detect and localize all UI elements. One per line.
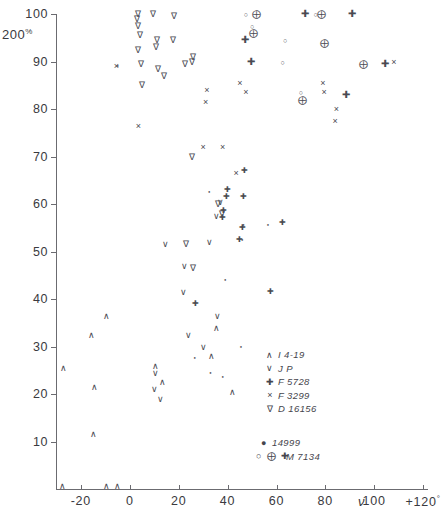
data-point <box>243 88 248 97</box>
data-point <box>206 238 213 247</box>
x-tick-100 <box>374 485 375 489</box>
legend-primary-item: ∇D 16156 <box>262 402 382 416</box>
legend-symbol-icon: ∇ <box>262 404 278 414</box>
legend-label: D 16156 <box>278 403 317 414</box>
data-point <box>189 57 195 66</box>
y-tick-60 <box>51 204 56 205</box>
data-point <box>180 287 187 296</box>
x-tick-label--20: -20 <box>71 494 91 508</box>
data-point <box>208 190 210 194</box>
x-tick-40 <box>228 485 229 489</box>
data-point <box>200 143 205 152</box>
data-point <box>252 10 261 19</box>
data-point <box>237 78 242 87</box>
data-point <box>103 311 110 320</box>
data-point <box>204 86 209 95</box>
y-tick-label-70: 70 <box>4 150 48 164</box>
x-tick-0 <box>130 485 131 489</box>
data-point <box>236 236 243 244</box>
legend-label: F 3299 <box>278 390 310 401</box>
data-point <box>320 38 329 47</box>
data-point <box>137 31 143 40</box>
data-point <box>332 116 337 125</box>
data-point <box>240 345 242 349</box>
y-tick-90 <box>51 62 56 63</box>
data-point <box>185 330 192 339</box>
data-point <box>299 89 303 96</box>
data-point <box>241 238 243 242</box>
data-point <box>221 375 223 379</box>
data-point <box>135 21 141 30</box>
data-point <box>213 323 220 332</box>
data-point <box>223 193 230 201</box>
data-point <box>283 37 287 44</box>
data-point <box>348 9 356 19</box>
legend-symbol-icon: ✚ <box>262 377 278 387</box>
data-point <box>182 59 188 68</box>
data-point <box>190 264 196 273</box>
data-point <box>152 368 159 377</box>
data-point <box>298 95 307 104</box>
data-point <box>134 14 140 23</box>
data-point <box>203 97 208 106</box>
x-tick-60 <box>277 485 278 489</box>
y-tick-label-90: 90 <box>4 55 48 69</box>
y-axis-line <box>56 14 57 490</box>
data-point <box>88 330 95 339</box>
data-point <box>136 121 141 130</box>
y-tick-40 <box>51 299 56 300</box>
data-point <box>320 78 325 87</box>
data-point <box>192 300 199 308</box>
legend-label: J P <box>278 363 293 374</box>
data-point <box>359 59 368 68</box>
data-point <box>239 224 246 232</box>
y-tick-label-10: 10 <box>4 435 48 449</box>
y-tick-label-40: 40 <box>4 292 48 306</box>
legend-primary-item: ✚F 5728 <box>262 375 382 389</box>
data-point <box>159 378 166 387</box>
y-tick-100 <box>51 14 56 15</box>
data-point <box>280 58 284 65</box>
data-point <box>217 197 224 206</box>
data-point <box>381 59 389 69</box>
y-tick-50 <box>51 252 56 253</box>
data-point <box>114 62 119 71</box>
data-point <box>190 52 196 61</box>
y-tick-label-20: 20 <box>4 387 48 401</box>
legend-symbol-icon: × <box>262 390 278 400</box>
data-point <box>242 223 244 227</box>
x-tick-label-40: 40 <box>220 494 236 508</box>
data-point <box>215 200 221 209</box>
y-tick-10 <box>51 442 56 443</box>
legend-symbol-icon: ● <box>256 438 272 448</box>
data-point <box>161 71 167 80</box>
data-point <box>219 209 225 218</box>
legend-secondary-item: ○ ⨁ ✚M 7134 <box>256 450 391 464</box>
x-tick-label-100: 100 <box>363 494 386 508</box>
data-point <box>183 240 189 249</box>
legend-primary-item: ∨J P <box>262 362 382 376</box>
data-point <box>209 371 211 375</box>
y-tick-80 <box>51 109 56 110</box>
legend-symbol-icon: ∧ <box>262 350 278 360</box>
y-tick-label-100: 100 <box>4 7 48 21</box>
data-point <box>139 81 145 90</box>
data-point <box>250 22 254 29</box>
data-point <box>171 12 177 21</box>
data-point <box>154 36 160 45</box>
x-tick-80 <box>325 485 326 489</box>
legend-primary-item: ×F 3299 <box>262 389 382 403</box>
y-tick-70 <box>51 157 56 158</box>
data-point <box>334 105 339 114</box>
data-point <box>267 288 274 296</box>
data-point <box>155 64 161 73</box>
data-point <box>90 430 97 439</box>
legend-primary: ∧I 4-19∨J P✚F 5728×F 3299∇D 16156 <box>262 348 382 416</box>
legend-symbol-icon: ∨ <box>262 363 278 373</box>
x-tick-+120 <box>423 485 424 489</box>
data-point <box>220 207 227 215</box>
data-point <box>214 311 221 320</box>
data-point <box>301 9 309 19</box>
data-point <box>138 59 144 68</box>
